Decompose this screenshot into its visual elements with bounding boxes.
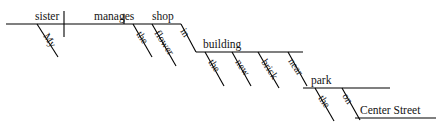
preposition-label-prep-in: in — [178, 26, 192, 39]
word-object: shop — [152, 10, 174, 23]
preposition-label-prep-on: on — [340, 91, 355, 106]
modifier-label-mod-flower: flower — [152, 28, 176, 57]
diagram-level-prep-phrase-on: onCenter Street — [340, 88, 436, 120]
diagram-level-main-clause: sistermanagesshopMytheflower — [6, 10, 181, 66]
word-subject: sister — [35, 10, 59, 22]
diagram-level-prep-phrase-in: inbuildingthenewbrick — [178, 24, 303, 88]
modifier-label-mod-new: new — [233, 57, 252, 78]
preposition-label-prep-near: near — [286, 56, 305, 78]
sentence-diagram: sistermanagesshopMytheflowerinbuildingth… — [0, 0, 441, 135]
modifier-label-mod-brick: brick — [259, 57, 280, 82]
word-obj-center-street: Center Street — [360, 104, 421, 116]
word-verb: manages — [94, 10, 135, 23]
diagram-canvas: sistermanagesshopMytheflowerinbuildingth… — [0, 0, 441, 135]
word-obj-park: park — [311, 74, 332, 87]
word-obj-building: building — [203, 38, 242, 51]
